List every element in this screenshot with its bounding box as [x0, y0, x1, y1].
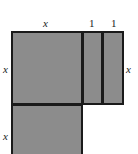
dimension-label-top-one-first: 1: [89, 18, 95, 29]
dimension-label-top-one-second: 1: [111, 18, 117, 29]
dimension-label-top-x: x: [43, 18, 48, 29]
tile-first-unit-strip: [82, 31, 103, 105]
tile-second-unit-strip: [102, 31, 124, 105]
dimension-label-left-x: x: [3, 64, 8, 75]
dimension-label-lower-x: x: [3, 131, 8, 142]
algebra-tiles-diagram: x 1 1 x x x: [0, 0, 138, 154]
dimension-label-right-x: x: [126, 64, 131, 75]
tile-top-left-square: [11, 31, 83, 105]
tile-bottom-left-square: [11, 104, 83, 154]
